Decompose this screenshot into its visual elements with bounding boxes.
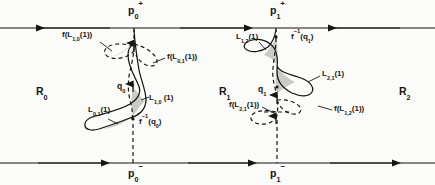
lobe-dynamics-figure: R0 R1 R2 p0+ p0− p1+ p1− q0 q1 L0,1(1) L… bbox=[0, 0, 435, 185]
image-label-f-L12-1: f(L1,2(1)) bbox=[334, 105, 364, 113]
lobe-label-L12-1: L1,2(1) bbox=[236, 33, 258, 41]
dashed-loop-fL10-p0 bbox=[105, 44, 135, 59]
leader-fL12 bbox=[318, 106, 332, 110]
point-f-inv-q0-marker bbox=[131, 117, 134, 120]
leader-fL01 bbox=[153, 58, 165, 63]
boundary-structure-p1 bbox=[244, 28, 332, 163]
leader-fL21 bbox=[262, 107, 276, 114]
point-label-q1: q1 bbox=[258, 85, 266, 94]
lobe-label-L21-1: L2,1(1) bbox=[322, 70, 344, 78]
image-label-f-L21-1: f(L2,1(1)) bbox=[229, 101, 259, 109]
leader-L12 bbox=[259, 42, 266, 50]
image-label-f-L01-1: f(L0,1(1)) bbox=[167, 53, 197, 61]
point-q1-marker bbox=[276, 86, 279, 89]
lobe-label-L01-1: L0,1(1) bbox=[88, 106, 110, 114]
point-label-p1-minus: p1− bbox=[270, 168, 285, 179]
point-f-inv-q1-marker bbox=[274, 35, 277, 38]
lobe-label-L10-1: L1,0 (1) bbox=[149, 94, 173, 102]
region-label-r1: R1 bbox=[219, 86, 231, 97]
image-label-f-inv-q0: f−1(q0) bbox=[139, 118, 162, 126]
leader-L10 bbox=[141, 97, 149, 100]
image-label-f-L10-1: f(L1,0(1)) bbox=[62, 31, 92, 39]
image-label-f-inv-q1: f−1(q1) bbox=[291, 33, 314, 41]
point-label-p0-plus: p0+ bbox=[128, 5, 143, 16]
leader-L01 bbox=[108, 119, 118, 124]
region-label-r0: R0 bbox=[36, 86, 48, 97]
leader-fL10 bbox=[100, 42, 112, 51]
figure-canvas bbox=[0, 0, 435, 185]
leader-L21 bbox=[308, 76, 320, 82]
point-label-p0-minus: p0− bbox=[128, 168, 143, 179]
point-label-p1-plus: p1+ bbox=[270, 5, 285, 16]
point-q0-marker bbox=[131, 83, 134, 86]
point-label-q0: q0 bbox=[117, 82, 125, 91]
region-label-r2: R2 bbox=[399, 86, 411, 97]
